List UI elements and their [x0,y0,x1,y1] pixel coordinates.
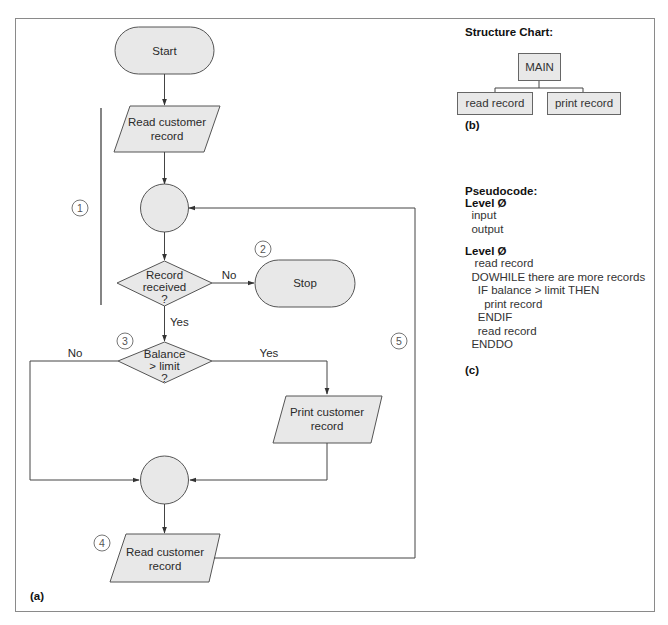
marker-4: 4 [94,535,110,551]
marker-1: 1 [72,200,88,216]
svg-text:record: record [311,420,344,432]
svg-text:1: 1 [77,202,83,214]
svg-text:> limit: > limit [149,360,180,372]
svg-text:3: 3 [122,335,128,347]
svg-text:Balance: Balance [144,348,186,360]
panel-label-c: (c) [465,364,645,376]
connector-circle-2 [141,456,189,504]
panel-label-a: (a) [30,590,44,602]
stop-label: Stop [293,277,317,289]
svg-text:?: ? [161,372,167,384]
pseudocode-line: ENDIF [465,311,645,325]
structure-chart-read-record: read record [457,92,533,115]
svg-text:2: 2 [260,243,266,255]
pseudocode-level0-title: Level Ø [465,197,645,209]
svg-text:?: ? [161,293,167,305]
record-received-decision: Record received ? [117,261,212,306]
read-record-input-1: Read customer record [114,106,220,152]
svg-text:Read customer: Read customer [126,546,204,558]
decision1-no-label: No [222,269,237,281]
start-terminator: Start [115,27,214,74]
pseudocode-title: Pseudocode: [465,185,645,197]
pseudocode-line: DOWHILE there are more records [465,271,645,285]
stop-terminator: Stop [255,260,355,307]
balance-limit-decision: Balance > limit ? [118,342,212,384]
pseudocode-line: read record [465,325,645,339]
print-record-output: Print customer record [273,396,382,443]
structure-chart-main: MAIN [518,53,561,81]
svg-text:record: record [151,130,184,142]
marker-3: 3 [117,333,133,349]
svg-text:Read customer: Read customer [128,116,206,128]
svg-text:received: received [143,281,186,293]
svg-text:Print customer: Print customer [290,406,364,418]
decision1-yes-label: Yes [170,316,189,328]
pseudocode-panel: Pseudocode: Level Ø input output Level Ø… [465,185,645,376]
marker-5: 5 [391,333,407,349]
svg-text:record: record [149,560,182,572]
pseudocode-line: IF balance > limit THEN [465,284,645,298]
pseudocode-line: output [465,223,645,237]
svg-text:Record: Record [146,269,183,281]
pseudocode-level1-title: Level Ø [465,245,645,257]
panel-label-b: (b) [465,119,480,131]
connector-circle-1 [141,184,189,232]
svg-text:4: 4 [99,537,105,549]
start-label: Start [152,45,177,57]
decision2-yes-label: Yes [260,347,279,359]
pseudocode-line: print record [465,298,645,312]
structure-chart-print-record: print record [547,92,621,115]
svg-text:5: 5 [396,335,402,347]
pseudocode-line: ENDDO [465,338,645,352]
marker-2: 2 [255,241,271,257]
structure-chart-title: Structure Chart: [465,26,553,38]
pseudocode-line: input [465,209,645,223]
read-record-input-2: Read customer record [110,534,220,582]
decision2-no-label: No [68,347,83,359]
pseudocode-line: read record [465,257,645,271]
